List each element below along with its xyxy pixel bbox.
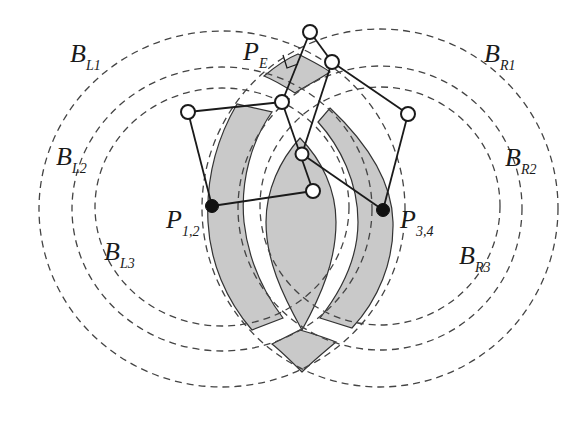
bottom-shaded-region — [272, 330, 336, 372]
label-P34: P3,4 — [399, 205, 433, 239]
label-BL1: BL1 — [70, 39, 101, 73]
shaded-regions — [208, 54, 393, 372]
node-far-left — [181, 105, 195, 119]
node-top — [303, 25, 317, 39]
label-BL3: BL3 — [104, 237, 135, 271]
label-BR3: BR3 — [459, 241, 490, 275]
center-shaded-lens — [266, 138, 336, 330]
node-lower-middle — [306, 184, 320, 198]
top-shaded-region — [264, 54, 330, 93]
label-PE: PE — [242, 37, 268, 71]
label-BR1: BR1 — [484, 39, 515, 73]
node-upper-left — [275, 95, 289, 109]
label-BR2: BR2 — [505, 143, 536, 177]
node-P12 — [206, 200, 219, 213]
label-P12: P1,2 — [165, 205, 199, 239]
node-middle — [296, 148, 309, 161]
node-far-right — [401, 107, 415, 121]
diagram-canvas: BL1 BL2 BL3 BR1 BR2 BR3 PE P1,2 P3,4 — [0, 0, 586, 423]
node-P34 — [377, 204, 390, 217]
node-upper-right — [325, 55, 339, 69]
